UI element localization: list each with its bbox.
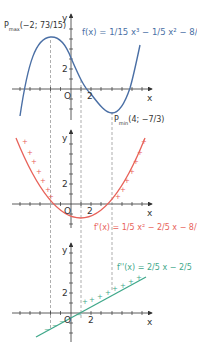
g3-y-label: y — [62, 246, 67, 255]
g2-y-tick-2: 2 — [62, 180, 68, 189]
graph3-sign-marks: +++ +++ ++ −−− − — [44, 274, 142, 334]
g1-formula: f(x) = 1/15 x³ − 1/5 x² − 8/5 x + 3 — [82, 28, 197, 37]
chart-canvas: +++ +++ + +++ +++ + +++ +++ ++ −−− − — [0, 0, 197, 359]
svg-text:+: + — [133, 158, 139, 166]
g1-y-tick-2: 2 — [62, 65, 68, 74]
g3-y-tick-2: 2 — [62, 289, 68, 298]
g2-y-label: y — [62, 134, 67, 143]
g3-formula: f''(x) = 2/5 x − 2/5 — [117, 264, 192, 272]
graph2-axes — [12, 130, 152, 228]
g1-x-tick-2: 2 — [87, 92, 93, 101]
g3-x-label: x — [147, 318, 152, 327]
svg-text:−: − — [52, 322, 58, 330]
svg-text:+: + — [36, 168, 42, 176]
svg-text:+: + — [128, 278, 134, 286]
svg-text:+: + — [120, 282, 126, 290]
svg-text:+: + — [141, 138, 147, 146]
g2-origin: O — [64, 207, 71, 216]
svg-text:+: + — [120, 186, 126, 194]
svg-text:−: − — [44, 326, 50, 334]
svg-text:+: + — [97, 293, 103, 301]
g1-y-label: y — [62, 14, 67, 23]
svg-text:+: + — [31, 158, 37, 166]
g1-origin: O — [64, 92, 71, 101]
pmax-label: Pmax(−2; 73/15) — [4, 22, 66, 32]
g3-x-tick-2: 2 — [88, 316, 94, 325]
svg-text:+: + — [48, 193, 54, 201]
guide-lines — [51, 40, 113, 330]
graph2-plus-marks: +++ +++ + +++ +++ + — [22, 138, 147, 201]
svg-text:+: + — [115, 193, 121, 201]
svg-text:+: + — [40, 177, 46, 185]
g2-x-label: x — [147, 209, 152, 218]
svg-text:−: − — [76, 311, 82, 319]
svg-text:+: + — [27, 149, 33, 157]
svg-text:+: + — [137, 149, 143, 157]
svg-text:+: + — [124, 177, 130, 185]
g3-origin: O — [64, 316, 71, 325]
svg-text:+: + — [89, 296, 95, 304]
g2-x-tick-2: 2 — [87, 207, 93, 216]
pmin-label: Pmin(4; −7/3) — [114, 116, 164, 126]
svg-text:+: + — [105, 289, 111, 297]
graph3-axes — [12, 243, 152, 342]
svg-text:+: + — [82, 298, 88, 306]
g2-formula: f'(x) = 1/5 x² − 2/5 x − 8/5 — [94, 224, 197, 232]
svg-text:+: + — [22, 138, 28, 146]
graph1-curve-f — [20, 37, 140, 116]
svg-text:+: + — [136, 274, 142, 282]
svg-text:+: + — [129, 168, 135, 176]
g1-x-label: x — [147, 94, 152, 103]
svg-text:+: + — [112, 285, 118, 293]
